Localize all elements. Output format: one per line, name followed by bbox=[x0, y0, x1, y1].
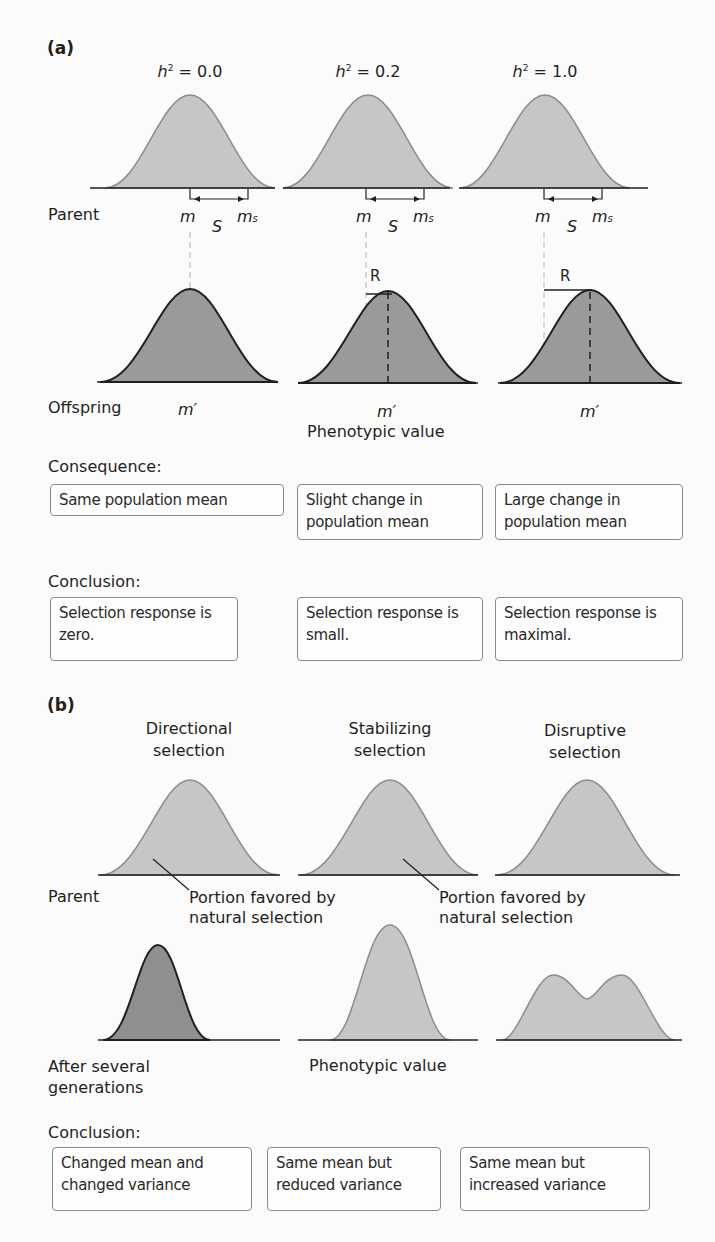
h2-value: = 0.2 bbox=[357, 62, 401, 81]
h2-value: = 0.0 bbox=[179, 62, 223, 81]
after-line2: generations bbox=[48, 1077, 150, 1098]
row-label-offspring: Offspring bbox=[48, 398, 121, 417]
S-label-1: S bbox=[212, 217, 222, 236]
row-label-after: After several generations bbox=[48, 1056, 150, 1098]
S-label-2: S bbox=[388, 217, 398, 236]
conclusion-box-a-1: Selection response is zero. bbox=[50, 597, 238, 661]
R-label-2: R bbox=[370, 267, 380, 285]
panel-b-label: (b) bbox=[47, 695, 75, 715]
title-line2: selection bbox=[109, 740, 269, 762]
h2-symbol: h bbox=[513, 62, 523, 81]
panel-a-label: (a) bbox=[47, 38, 74, 58]
h2-label-3: h2 = 1.0 bbox=[485, 62, 605, 81]
conclusion-box-b-1: Changed mean and changed variance bbox=[52, 1147, 252, 1211]
annotation-stabilizing: Portion favored by natural selection bbox=[439, 888, 586, 928]
axis-label-a: Phenotypic value bbox=[307, 422, 445, 441]
annotation-line1: Portion favored by bbox=[189, 888, 336, 908]
h2-exp: 2 bbox=[168, 63, 174, 73]
consequence-box-1: Same population mean bbox=[50, 484, 284, 516]
h2-symbol: h bbox=[336, 62, 346, 81]
ms-label-2: ms bbox=[413, 207, 434, 226]
after-curve-directional bbox=[103, 945, 210, 1040]
after-line1: After several bbox=[48, 1056, 150, 1077]
offspring-curve-2 bbox=[298, 291, 476, 383]
ms-label-1: ms bbox=[237, 207, 258, 226]
title-line2: selection bbox=[505, 742, 665, 764]
annotation-line1: Portion favored by bbox=[439, 888, 586, 908]
m-label-2: m bbox=[356, 207, 372, 226]
h2-exp: 2 bbox=[523, 63, 529, 73]
title-stabilizing: Stabilizing selection bbox=[310, 718, 470, 762]
title-line1: Disruptive bbox=[505, 720, 665, 742]
after-curve-stabilizing bbox=[330, 925, 450, 1040]
row-label-parent-b: Parent bbox=[48, 887, 99, 906]
parent-curve-directional bbox=[100, 780, 278, 875]
m-prime-label-1: m′ bbox=[178, 400, 197, 419]
annotation-directional: Portion favored by natural selection bbox=[189, 888, 336, 928]
row-label-parent-a: Parent bbox=[48, 205, 99, 224]
ms-sub: s bbox=[253, 213, 258, 224]
conclusion-heading-a: Conclusion: bbox=[48, 572, 141, 591]
h2-label-2: h2 = 0.2 bbox=[308, 62, 428, 81]
consequence-heading: Consequence: bbox=[48, 457, 162, 476]
after-curve-disruptive bbox=[502, 975, 675, 1040]
m-label-1: m bbox=[180, 207, 196, 226]
title-line1: Stabilizing bbox=[310, 718, 470, 740]
conclusion-box-b-2: Same mean but reduced variance bbox=[267, 1147, 441, 1211]
h2-symbol: h bbox=[158, 62, 168, 81]
h2-label-1: h2 = 0.0 bbox=[130, 62, 250, 81]
parent-curve-disruptive bbox=[497, 780, 675, 875]
ms-sub: s bbox=[429, 213, 434, 224]
parent-curve-h2-1.0 bbox=[460, 95, 630, 188]
R-label-3: R bbox=[560, 267, 570, 285]
axis-label-b: Phenotypic value bbox=[309, 1056, 447, 1075]
parent-curve-h2-0 bbox=[105, 95, 275, 188]
ms-text: m bbox=[592, 207, 608, 226]
consequence-box-2: Slight change in population mean bbox=[297, 484, 483, 540]
title-line2: selection bbox=[310, 740, 470, 762]
annotation-line2: natural selection bbox=[439, 908, 586, 928]
title-disruptive: Disruptive selection bbox=[505, 720, 665, 764]
m-prime-label-3: m′ bbox=[580, 402, 599, 421]
parent-curve-stabilizing bbox=[300, 780, 478, 875]
conclusion-box-a-3: Selection response is maximal. bbox=[495, 597, 683, 661]
title-directional: Directional selection bbox=[109, 718, 269, 762]
title-line1: Directional bbox=[109, 718, 269, 740]
offspring-curve-1 bbox=[100, 289, 278, 382]
conclusion-box-b-3: Same mean but increased variance bbox=[460, 1147, 650, 1211]
ms-sub: s bbox=[608, 213, 613, 224]
conclusion-box-a-2: Selection response is small. bbox=[297, 597, 483, 661]
ms-text: m bbox=[413, 207, 429, 226]
conclusion-heading-b: Conclusion: bbox=[48, 1123, 141, 1142]
m-prime-label-2: m′ bbox=[377, 402, 396, 421]
S-label-3: S bbox=[567, 217, 577, 236]
annotation-line2: natural selection bbox=[189, 908, 336, 928]
h2-value: = 1.0 bbox=[534, 62, 578, 81]
h2-exp: 2 bbox=[346, 63, 352, 73]
ms-label-3: ms bbox=[592, 207, 613, 226]
consequence-box-3: Large change in population mean bbox=[495, 484, 683, 540]
m-label-3: m bbox=[535, 207, 551, 226]
ms-text: m bbox=[237, 207, 253, 226]
parent-curve-h2-0.2 bbox=[283, 95, 453, 188]
